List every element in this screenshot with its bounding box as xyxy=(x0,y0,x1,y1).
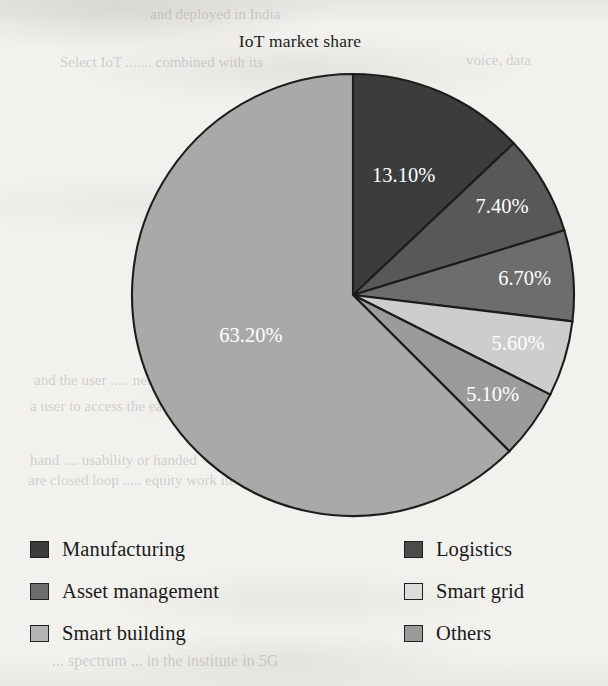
legend-swatch-icon xyxy=(30,541,49,558)
legend-item[interactable]: Others xyxy=(404,612,590,654)
pie-slice-label: 5.60% xyxy=(492,332,545,354)
legend-item[interactable]: Smart building xyxy=(30,612,404,654)
chart-legend: ManufacturingLogisticsAsset managementSm… xyxy=(30,528,590,658)
chart-page: and deployed in IndiaSelect IoT ....... … xyxy=(0,0,608,686)
pie-slice-label: 63.20% xyxy=(219,324,282,346)
page-title: IoT market share xyxy=(0,31,600,52)
legend-label: Asset management xyxy=(62,581,219,602)
bleed-through-line: and deployed in India xyxy=(150,6,280,23)
legend-swatch-icon xyxy=(30,625,49,642)
legend-swatch-icon xyxy=(30,583,49,600)
pie-slice-label: 6.70% xyxy=(498,267,551,289)
legend-item[interactable]: Asset management xyxy=(30,570,404,612)
legend-swatch-icon xyxy=(404,541,423,558)
bleed-through-line: voice, data xyxy=(466,52,531,69)
legend-label: Smart building xyxy=(62,623,186,644)
legend-label: Smart grid xyxy=(436,581,524,602)
legend-label: Others xyxy=(436,623,491,644)
bleed-through-line: Select IoT ....... combined with its xyxy=(60,54,263,71)
legend-label: Logistics xyxy=(436,539,512,560)
pie-slice-group xyxy=(132,74,574,516)
legend-item[interactable]: Logistics xyxy=(404,528,590,570)
pie-slice-label: 5.10% xyxy=(466,383,519,405)
legend-item[interactable]: Smart grid xyxy=(404,570,590,612)
legend-item[interactable]: Manufacturing xyxy=(30,528,404,570)
pie-slice-label: 7.40% xyxy=(476,195,529,217)
legend-swatch-icon xyxy=(404,583,423,600)
pie-slice-label: 13.10% xyxy=(372,164,435,186)
pie-chart-svg: 13.10%7.40%6.70%5.60%5.10%63.20% xyxy=(130,72,576,518)
pie-chart: 13.10%7.40%6.70%5.60%5.10%63.20% xyxy=(130,72,576,518)
legend-label: Manufacturing xyxy=(62,539,185,560)
legend-swatch-icon xyxy=(404,625,423,642)
